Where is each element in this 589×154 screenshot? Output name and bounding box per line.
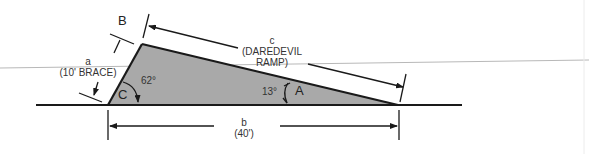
angle-a-value: 13° (262, 86, 277, 97)
side-a-label: a (10' BRACE) (58, 56, 118, 78)
vertex-a-label: A (295, 85, 304, 96)
angle-c-value: 62° (141, 75, 156, 86)
side-b-label: b (40') (224, 117, 264, 139)
vertex-c-label: C (118, 89, 127, 100)
vertex-b-label: B (118, 15, 127, 26)
side-c-label: c (DAREDEVIL RAMP) (236, 35, 308, 68)
